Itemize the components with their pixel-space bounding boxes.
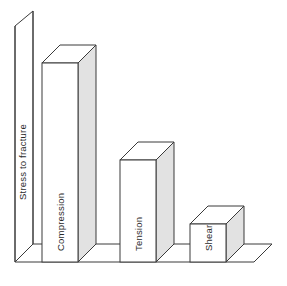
bar-label-tension: Tension <box>133 217 144 251</box>
bar-compression-side-face <box>78 45 96 262</box>
bar-label-compression: Compression <box>55 193 66 251</box>
stress-to-fracture-chart: Compression Tension Shear Stress to frac… <box>0 0 287 286</box>
bar-label-shear: Shear <box>203 225 214 251</box>
bar-compression: Compression <box>42 45 96 262</box>
bar-tension-side-face <box>156 142 174 262</box>
bar-tension: Tension <box>120 142 174 262</box>
chart-canvas: Compression Tension Shear Stress to frac… <box>0 0 287 286</box>
y-axis-title: Stress to fracture <box>17 124 28 200</box>
